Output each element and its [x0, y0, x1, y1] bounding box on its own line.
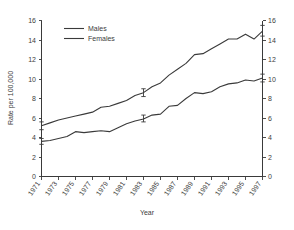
left-axis-tick-label: 12	[28, 56, 36, 63]
right-axis-tick-label: 4	[268, 134, 272, 141]
right-axis-tick-label: 8	[268, 95, 272, 102]
x-axis-title: Year	[140, 209, 155, 216]
chart-container: 0246810121416 0246810121416 197119731975…	[0, 0, 294, 230]
y-axis-title: Rate per 100,000	[7, 71, 15, 125]
right-axis-tick-label: 0	[268, 173, 272, 180]
right-axis-tick-label: 14	[268, 37, 276, 44]
right-axis-tick-label: 2	[268, 154, 272, 161]
right-axis-tick-label: 16	[268, 17, 276, 24]
left-axis-tick-label: 14	[28, 37, 36, 44]
left-axis-tick-label: 2	[32, 154, 36, 161]
left-axis-tick-label: 0	[32, 173, 36, 180]
left-axis-tick-label: 8	[32, 95, 36, 102]
legend-label-females: Females	[88, 35, 115, 42]
right-axis-tick-label: 10	[268, 76, 276, 83]
right-axis-tick-label: 6	[268, 115, 272, 122]
left-axis-tick-label: 6	[32, 115, 36, 122]
right-axis-tick-label: 12	[268, 56, 276, 63]
left-axis-tick-label: 16	[28, 17, 36, 24]
line-chart: 0246810121416 0246810121416 197119731975…	[0, 0, 294, 230]
left-axis-tick-label: 4	[32, 134, 36, 141]
left-axis-tick-label: 10	[28, 76, 36, 83]
legend-label-males: Males	[88, 25, 107, 32]
